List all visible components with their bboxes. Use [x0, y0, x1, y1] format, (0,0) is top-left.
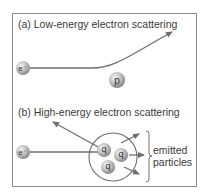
panel-a-title: (a) Low-energy electron scattering	[18, 18, 177, 30]
quark-particle: q	[114, 148, 128, 162]
quark-label: q	[101, 144, 106, 154]
electron-trajectory-arrow	[30, 32, 172, 68]
proton-boundary-circle	[89, 133, 137, 181]
electron-label: e⁻	[18, 64, 26, 73]
electron-label: e⁻	[18, 148, 26, 157]
quark-particle: q	[97, 143, 111, 157]
quark-particle: q	[101, 160, 115, 174]
proton-label: p	[114, 75, 120, 86]
electron-particle: e⁻	[16, 61, 30, 75]
bracket	[146, 131, 152, 182]
emitted-label-line2: particles	[153, 156, 192, 168]
scattering-diagram: (a) Low-energy electron scattering e⁻ p …	[0, 0, 203, 194]
quark-label: q	[118, 149, 123, 159]
panel-b-title: (b) High-energy electron scattering	[18, 106, 180, 118]
quark-label: q	[105, 161, 110, 171]
proton-particle: p	[109, 72, 125, 88]
emitted-label-line1: emitted	[153, 144, 188, 156]
panel-a: (a) Low-energy electron scattering e⁻ p	[16, 18, 177, 88]
panel-b: (b) High-energy electron scattering e⁻ q…	[16, 106, 192, 182]
electron-particle: e⁻	[16, 145, 30, 159]
